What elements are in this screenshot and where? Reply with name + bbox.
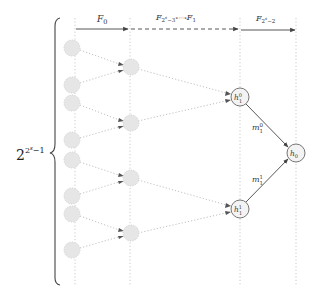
node-h0: h0 [287,144,305,162]
node-h11: h11 [231,200,249,218]
label-F0: F0 [96,14,107,26]
faded-nodes-col2 [123,59,139,241]
label-m10: m01 [252,122,264,134]
label-Fmid: F2s−3∘···∘F1 [155,13,196,23]
diagram-canvas: F0 F2s−3∘···∘F1 F2s−2 22s−1 [0,0,318,297]
faded-edges-layer2 [138,69,230,233]
brace-label: 22s−1 [16,145,45,163]
diagram-svg: F0 F2s−3∘···∘F1 F2s−2 22s−1 [0,0,318,297]
node-h10: h01 [231,88,249,106]
label-Flast: F2s−2 [255,14,275,24]
faded-nodes-col1 [64,40,80,258]
left-brace [50,18,60,285]
top-arrows [76,29,295,30]
faded-arrowheads-layer1 [118,62,124,239]
vertical-guides [75,18,296,285]
faded-arrowheads-layer2 [225,91,231,215]
label-m11: m11 [252,174,263,186]
faded-edges-layer1 [80,50,122,248]
